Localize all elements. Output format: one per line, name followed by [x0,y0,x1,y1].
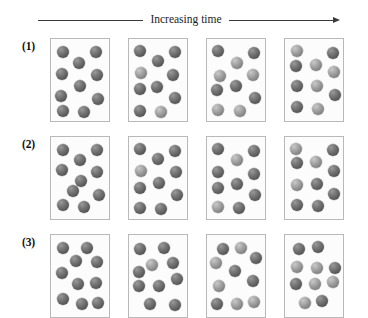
particle-row-3: (3) [0,234,368,318]
particle-sphere [74,154,86,166]
particle-sphere [328,165,340,177]
particle-sphere [90,277,102,289]
particle-sphere [92,93,104,105]
particle-sphere [56,164,68,176]
particle-sphere [212,45,224,57]
particle-sphere [70,255,82,267]
particle-box-r2-t4 [284,136,344,220]
particle-sphere [291,45,303,57]
particle-sphere [229,265,241,277]
particle-sphere [72,278,84,290]
particle-sphere [135,67,147,79]
particle-sphere [234,105,246,117]
particle-sphere [93,189,105,201]
particle-sphere [291,101,303,113]
particle-sphere [248,145,260,157]
increasing-time-axis: Increasing time [38,10,340,30]
particle-row-2: (2) [0,136,368,222]
particle-sphere [155,106,167,118]
particle-sphere [78,106,90,118]
particle-sphere [153,280,165,292]
particle-sphere [57,105,69,117]
particle-sphere [90,46,102,58]
particle-sphere [152,55,164,67]
particle-sphere [74,80,86,92]
particle-sphere [134,105,146,117]
particle-box-r3-t4 [284,234,344,318]
particle-sphere [310,156,322,168]
particle-diffusion-figure: Increasing time (1)(2)(3) [0,0,368,318]
particle-sphere [211,298,223,310]
particle-sphere [169,299,181,311]
particle-sphere [155,203,167,215]
particle-sphere [169,92,181,104]
particle-sphere [230,80,242,92]
particle-sphere [57,293,69,305]
particle-sphere [91,166,103,178]
particle-sphere [328,66,340,78]
particle-box-r3-t3 [206,234,266,318]
particle-sphere [291,80,303,92]
particle-sphere [134,182,146,194]
particle-sphere [56,267,68,279]
particle-sphere [134,143,146,155]
particle-box-r1-t4 [284,38,344,122]
particle-sphere [144,298,156,310]
particle-sphere [133,266,145,278]
particle-sphere [231,298,243,310]
particle-sphere [329,262,341,274]
particle-sphere [153,177,165,189]
particle-sphere [293,243,305,255]
particle-sphere [134,243,146,255]
particle-sphere [135,165,147,177]
particle-sphere [248,296,260,308]
particle-sphere [248,168,260,180]
particle-sphere [291,157,303,169]
particle-sphere [171,189,183,201]
particle-sphere [212,143,224,155]
particle-sphere [167,69,179,81]
particle-sphere [170,166,182,178]
particle-sphere [235,242,247,254]
row-label-2: (2) [22,138,35,150]
particle-sphere [55,90,67,102]
particle-sphere [81,242,93,254]
particle-sphere [250,252,262,264]
particle-sphere [134,45,146,57]
particle-sphere [328,188,340,200]
particle-sphere [310,59,322,71]
particle-box-r3-t2 [128,234,188,318]
particle-sphere [312,200,324,212]
particle-sphere [213,280,225,292]
particle-sphere [133,280,145,292]
particle-sphere [75,175,87,187]
particle-box-r3-t1 [50,234,110,318]
particle-sphere [158,242,170,254]
particle-sphere [57,46,69,58]
particle-sphere [311,178,323,190]
particle-sphere [247,69,259,81]
particle-sphere [212,104,224,116]
particle-sphere [312,241,324,253]
particle-sphere [146,259,158,271]
time-axis-label: Increasing time [143,14,228,26]
particle-sphere [212,182,224,194]
particle-sphere [167,257,179,269]
particle-sphere [56,68,68,80]
particle-sphere [57,199,69,211]
particle-sphere [231,178,243,190]
particle-sphere [57,144,69,156]
row-label-1: (1) [22,40,35,52]
particle-box-r1-t2 [128,38,188,122]
particle-sphere [316,295,328,307]
particle-sphere [91,69,103,81]
particle-sphere [327,47,339,59]
particle-sphere [312,103,324,115]
particle-sphere [249,189,261,201]
particle-sphere [248,47,260,59]
axis-line-right [229,20,334,21]
particle-sphere [290,278,302,290]
particle-box-r2-t3 [206,136,266,220]
particle-sphere [291,199,303,211]
particle-sphere [311,80,323,92]
